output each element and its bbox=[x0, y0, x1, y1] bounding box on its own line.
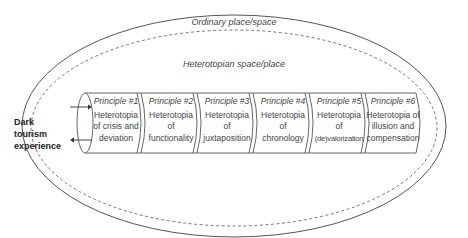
principle-title: Principle #2 bbox=[144, 96, 198, 108]
dark-label-line: Dark bbox=[14, 116, 61, 128]
principle-desc-line: Heterotopia bbox=[256, 110, 310, 122]
principle-desc-line: deviation bbox=[89, 133, 143, 145]
principle-desc-line: functionality bbox=[144, 133, 198, 145]
principle-3-segment: Principle #3 Heterotopia of juxtapositio… bbox=[200, 96, 254, 144]
principle-desc-line: (de)valorization bbox=[312, 133, 366, 145]
tourism-label-line: tourism bbox=[14, 128, 61, 140]
principle-desc-line: Heterotopia of bbox=[366, 110, 420, 122]
principle-desc-line: of bbox=[256, 121, 310, 133]
principle-desc-line: Heterotopia bbox=[144, 110, 198, 122]
principle-title: Principle #5 bbox=[312, 96, 366, 108]
principle-desc-line: of bbox=[144, 121, 198, 133]
principle-5-segment: Principle #5 Heterotopia of (de)valoriza… bbox=[312, 96, 366, 144]
principle-6-segment: Principle #6 Heterotopia of illusion and… bbox=[366, 96, 420, 144]
principle-desc-line: compensation bbox=[366, 133, 420, 145]
principle-desc-line: juxtaposition bbox=[200, 133, 254, 145]
experience-label-line: experience bbox=[14, 140, 61, 152]
principle-title: Principle #1 bbox=[89, 96, 143, 108]
principle-2-segment: Principle #2 Heterotopia of functionalit… bbox=[144, 96, 198, 144]
principle-desc-line: Heterotopia bbox=[312, 110, 366, 122]
ordinary-space-label: Ordinary place/space bbox=[0, 17, 468, 27]
principle-4-segment: Principle #4 Heterotopia of chronology bbox=[256, 96, 310, 144]
principle-title: Principle #4 bbox=[256, 96, 310, 108]
dark-tourism-experience-label: Dark tourism experience bbox=[14, 116, 61, 152]
principle-1-segment: Principle #1 Heterotopia of crisis and d… bbox=[89, 96, 143, 144]
principle-desc-line: Heterotopia bbox=[200, 110, 254, 122]
principle-desc-line: of bbox=[200, 121, 254, 133]
heterotopian-space-label: Heterotopian space/place bbox=[0, 59, 468, 69]
principle-desc-line: chronology bbox=[256, 133, 310, 145]
principle-title: Principle #6 bbox=[366, 96, 420, 108]
principle-desc-line: Heterotopia bbox=[89, 110, 143, 122]
principle-desc-line: of crisis and bbox=[89, 121, 143, 133]
principle-desc-line: of bbox=[312, 121, 366, 133]
principle-title: Principle #3 bbox=[200, 96, 254, 108]
principle-desc-line: illusion and bbox=[366, 121, 420, 133]
